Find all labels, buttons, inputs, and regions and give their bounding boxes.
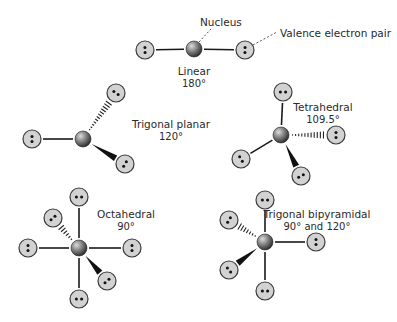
bond-line (250, 140, 272, 153)
wedge-bond (285, 144, 299, 168)
wedge-bond (236, 248, 257, 266)
bond-angle-label: 109.5° (306, 114, 340, 125)
electron-pair-icon (236, 41, 254, 59)
electron-pair-icon (98, 272, 116, 290)
geometry-trigonal-planar: Trigonal planar120° (23, 84, 211, 173)
hashed-bond (59, 225, 72, 240)
bond-line (281, 103, 282, 125)
electron-pair-icon (107, 84, 125, 102)
bond-line (156, 49, 184, 50)
valence-pair-label: Valence electron pair (280, 27, 392, 39)
electron-pair-icon (23, 130, 41, 148)
electron-pair-icon (116, 155, 134, 173)
bond-line (204, 49, 234, 50)
nucleus-icon (273, 127, 289, 143)
geometry-name-label: Linear (178, 65, 211, 77)
annotations: Nucleus Valence electron pair (199, 16, 392, 45)
nucleus-icon (186, 41, 202, 57)
bond-angle-label: 180° (182, 78, 206, 89)
bond-angle-label: 120° (159, 131, 183, 142)
geometry-name-label: Tetrahedral (292, 101, 352, 113)
electron-pair-icon (256, 282, 274, 300)
hashed-bond (293, 131, 324, 138)
electron-pair-icon (123, 239, 141, 257)
electron-pair-icon (256, 191, 274, 209)
geometry-name-label: Octahedral (97, 208, 155, 220)
valence-pair-leader-line (253, 32, 277, 45)
vsepr-diagram: Nucleus Valence electron pair Linear180°… (0, 0, 397, 322)
electron-pair-icon (136, 41, 154, 59)
hashed-bond (89, 101, 111, 130)
nucleus-icon (71, 240, 87, 256)
nucleus-label: Nucleus (200, 16, 242, 28)
wedge-bond (85, 256, 102, 275)
geometry-trigonal-bipyramidal: Trigonal bipyramidal90° and 120° (220, 191, 370, 300)
geometry-name-label: Trigonal planar (131, 118, 211, 130)
geometry-octahedral: Octahedral90° (19, 188, 155, 308)
electron-pair-icon (232, 150, 250, 168)
bond-angle-label: 90° (117, 221, 135, 232)
electron-pair-icon (70, 290, 88, 308)
nucleus-leader-line (199, 29, 211, 42)
nucleus-icon (75, 131, 91, 147)
wedge-bond (92, 144, 118, 161)
electron-pair-icon (70, 188, 88, 206)
electron-pair-icon (44, 209, 62, 227)
bond-angle-label: 90° and 120° (284, 221, 351, 232)
hashed-bond (238, 224, 256, 237)
geometry-linear: Linear180° (136, 41, 254, 89)
electron-pair-icon (292, 167, 310, 185)
electron-pair-icon (220, 261, 238, 279)
nucleus-icon (257, 234, 273, 250)
electron-pair-icon (274, 83, 292, 101)
electron-pair-icon (19, 239, 37, 257)
geometry-tetrahedral: Tetrahedral109.5° (232, 83, 353, 185)
electron-pair-icon (307, 233, 325, 251)
geometry-name-label: Trigonal bipyramidal (263, 208, 371, 220)
electron-pair-icon (327, 126, 345, 144)
electron-pair-icon (220, 211, 238, 229)
